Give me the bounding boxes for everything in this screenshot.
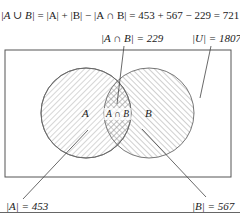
- union-formula: |A ∪ B| = |A| + |B| − |A ∩ B| = 453 + 56…: [1, 9, 240, 21]
- universe-count-label: |U| = 1807: [192, 32, 240, 44]
- a-count-label: |A| = 453: [6, 200, 49, 212]
- intersection-label: A ∩ B: [105, 109, 129, 119]
- venn-diagram: |A ∪ B| = |A| + |B| − |A ∩ B| = 453 + 56…: [0, 0, 240, 214]
- set-b-label: B: [145, 107, 152, 119]
- b-count-label: |B| = 567: [192, 200, 235, 212]
- intersection-count-label: |A ∩ B| = 229: [101, 32, 164, 44]
- set-a-label: A: [81, 107, 89, 119]
- universe-leader-line: [200, 46, 211, 98]
